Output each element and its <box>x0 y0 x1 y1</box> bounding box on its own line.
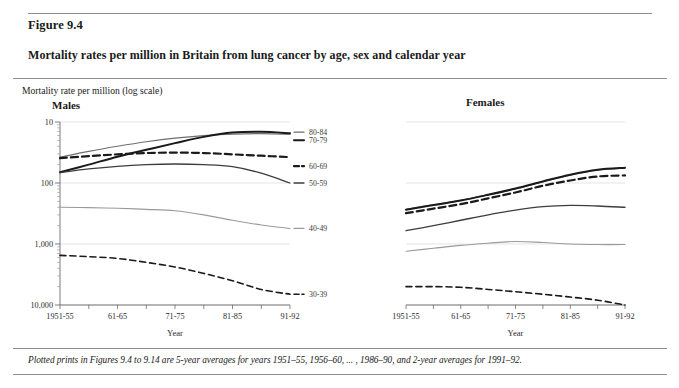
x-axis-title-males: Year <box>167 328 183 338</box>
legend-label-30-39: 30-39 <box>309 290 327 299</box>
panel-males: 10,0001,000100101951-5561-6571-7581-8591… <box>30 118 299 338</box>
legend: 80-8470-7960-6950-5940-4930-39 <box>294 128 327 299</box>
series-line-males-40-49 <box>60 207 290 228</box>
series-line-males-50-59 <box>60 164 290 183</box>
x-tick-label-1: 61-65 <box>451 312 470 321</box>
series-line-females-50-59 <box>406 205 625 230</box>
x-tick-label-2: 71-75 <box>165 312 184 321</box>
footer-rule-bottom <box>13 374 667 375</box>
x-tick-label-4: 91-92 <box>280 312 299 321</box>
y-tick-label-1000: 100 <box>41 179 53 188</box>
x-tick-label-0: 1951-55 <box>392 312 419 321</box>
x-axis-title-females: Year <box>508 328 524 338</box>
y-tick-label-10: 10,000 <box>30 301 53 310</box>
x-tick-label-1: 61-65 <box>108 312 127 321</box>
y-tick-label-100: 1,000 <box>35 240 53 249</box>
x-tick-label-3: 81-85 <box>561 312 580 321</box>
series-line-males-60-69 <box>60 153 290 159</box>
y-tick-label-10000: 10 <box>45 118 53 127</box>
figure-container: Figure 9.4 Mortality rates per million i… <box>0 0 679 388</box>
series-line-females-60-69 <box>406 175 625 213</box>
x-tick-label-0: 1951-55 <box>46 312 73 321</box>
footer-rule-top <box>13 348 667 349</box>
legend-label-40-49: 40-49 <box>309 224 327 233</box>
figure-footnote: Plotted prints in Figures 9.4 to 9.14 ar… <box>28 355 658 365</box>
series-line-females-70-79 <box>406 168 625 210</box>
legend-label-70-79: 70-79 <box>309 136 327 145</box>
series-line-females-40-49 <box>406 241 625 251</box>
chart-canvas: 10,0001,000100101951-5561-6571-7581-8591… <box>0 0 679 388</box>
series-line-females-30-39 <box>406 287 625 305</box>
x-tick-label-3: 81-85 <box>223 312 242 321</box>
panel-females: 1951-5561-6571-7581-8591-92Year <box>392 122 634 338</box>
x-tick-label-4: 91-92 <box>615 312 634 321</box>
series-line-males-30-39 <box>60 255 290 294</box>
x-tick-label-2: 71-75 <box>506 312 525 321</box>
legend-label-60-69: 60-69 <box>309 162 327 171</box>
legend-label-50-59: 50-59 <box>309 179 327 188</box>
